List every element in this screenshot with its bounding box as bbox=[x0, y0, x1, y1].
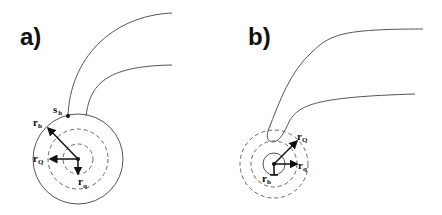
panel-a-arrow-rh bbox=[48, 128, 78, 159]
panel-a-label-sh: sh bbox=[53, 103, 62, 117]
panel-b-label: b) bbox=[248, 23, 271, 50]
panel-b-label-rQ: rQ bbox=[297, 130, 308, 144]
panel-b: b) rQ rq rh bbox=[240, 23, 423, 198]
panel-a-label-rQ: rQ bbox=[33, 152, 44, 166]
panel-b-label-rq: rq bbox=[298, 159, 307, 173]
panel-a-label-rq: rq bbox=[78, 175, 87, 190]
panel-a-tail-inner bbox=[86, 65, 172, 116]
panel-a-tail-outer bbox=[68, 13, 172, 116]
figure-canvas: a) sh rh rQ rq b) bbox=[0, 0, 442, 215]
panel-a: a) sh rh rQ rq bbox=[20, 13, 172, 204]
panel-a-sh-point bbox=[66, 114, 70, 118]
panel-a-label: a) bbox=[20, 23, 41, 50]
panel-a-label-rh: rh bbox=[33, 116, 42, 130]
panel-b-tail bbox=[267, 29, 423, 142]
